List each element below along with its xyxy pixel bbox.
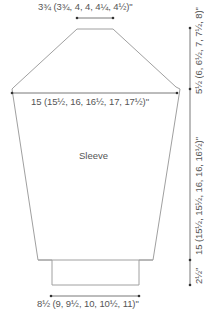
cuff-height-label: 2½" (193, 268, 204, 284)
piece-label: Sleeve (79, 150, 108, 161)
upper-width-label: 15 (15½, 16, 16½, 17, 17½)" (31, 96, 149, 107)
cap-height-label: 5½ (6, 6½, 7, 7½, 8)" (193, 7, 204, 94)
top-width-label: 3¾ (3¾, 4, 4, 4¼, 4½)" (38, 1, 133, 12)
cuff-width-label: 8½ (9, 9½, 10, 10½, 11)" (37, 298, 139, 309)
sleeve-length-label: 15 (15½, 15½, 16, 16, 16½)" (193, 137, 204, 255)
